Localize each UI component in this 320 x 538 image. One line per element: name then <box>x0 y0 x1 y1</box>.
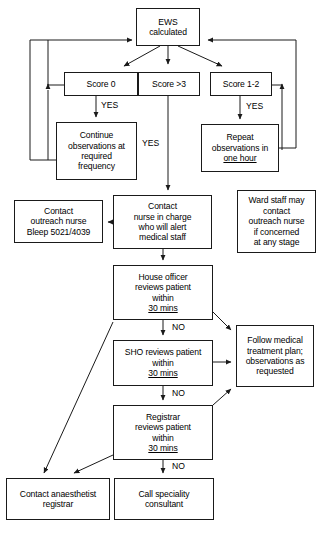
node-repeat-line3: one hour <box>223 153 256 163</box>
node-house-line2: reviews patient <box>116 282 210 292</box>
node-registrar-line1: Registrar <box>116 412 210 422</box>
node-house-line3: within <box>116 293 210 303</box>
node-registrar-line4: 30 mins <box>148 443 177 453</box>
edge-registrar-to-plan <box>213 389 231 405</box>
node-sho-line1: SHO reviews patient <box>116 347 210 357</box>
node-score-greater-than-3[interactable]: Score >3 <box>138 72 200 96</box>
node-speciality-line1: Call speciality <box>117 489 211 499</box>
edge-registrar-to-anaesthetist <box>74 455 113 473</box>
node-plan-line4: requested <box>239 366 311 376</box>
edge-ews-to-score12 <box>178 46 222 66</box>
node-nurse-line2: nurse in charge <box>116 212 209 222</box>
node-nurse-line1: Contact <box>116 201 209 211</box>
node-score-0-label: Score 0 <box>67 79 135 89</box>
edge-ews-to-score0 <box>124 46 160 66</box>
node-score-1-2[interactable]: Score 1-2 <box>210 72 272 96</box>
node-house-officer-review[interactable]: House officer reviews patient within 30 … <box>113 265 213 320</box>
node-repeat-observations[interactable]: Repeat observations in one hour <box>201 124 279 172</box>
node-outreach-line2: outreach nurse <box>17 216 100 226</box>
node-anaesthetist-line2: registrar <box>9 499 107 509</box>
node-continue-observations[interactable]: Continue observations at required freque… <box>56 122 137 180</box>
node-continue-line4: frequency <box>59 161 134 171</box>
edge-house-officer-to-anaesthetist <box>44 322 113 473</box>
edge-label-no-sho: NO <box>172 388 185 398</box>
node-score-1-2-label: Score 1-2 <box>213 79 269 89</box>
node-score-0[interactable]: Score 0 <box>64 72 138 96</box>
node-anaesthetist-line1: Contact anaesthetist <box>9 489 107 499</box>
edge-score0-left-rail <box>48 40 64 85</box>
node-ews-line2: calculated <box>139 27 197 37</box>
node-speciality-line2: consultant <box>117 499 211 509</box>
edge-label-no-house-officer: NO <box>172 322 185 332</box>
node-sho-line3: 30 mins <box>148 368 177 378</box>
node-registrar-line2: reviews patient <box>116 422 210 432</box>
node-registrar-line3: within <box>116 433 210 443</box>
node-house-line4: 30 mins <box>148 303 177 313</box>
node-repeat-line2: observations in <box>204 143 276 153</box>
node-plan-line2: treatment plan; <box>239 346 311 356</box>
node-ews-calculated[interactable]: EWS calculated <box>136 8 200 46</box>
node-ward-line3: outreach nurse <box>240 216 313 226</box>
node-ward-line1: Ward staff may <box>240 195 313 205</box>
node-call-speciality-consultant[interactable]: Call speciality consultant <box>114 478 214 520</box>
node-house-line1: House officer <box>116 272 210 282</box>
node-registrar-review[interactable]: Registrar reviews patient within 30 mins <box>113 405 213 460</box>
node-nurse-line4: medical staff <box>116 232 209 242</box>
node-continue-line1: Continue <box>59 130 134 140</box>
flowchart-canvas: EWS calculated Score 0 Score >3 Score 1-… <box>0 0 320 538</box>
node-continue-line2: observations at <box>59 141 134 151</box>
node-ward-line5: at any stage <box>240 237 313 247</box>
node-sho-review[interactable]: SHO reviews patient within 30 mins <box>113 340 213 386</box>
edge-label-yes-score0: YES <box>101 100 118 110</box>
node-ews-line1: EWS <box>139 17 197 27</box>
edge-label-yes-score-gt3: YES <box>142 138 159 148</box>
edge-label-no-registrar: NO <box>172 461 185 471</box>
node-plan-line3: observations as <box>239 356 311 366</box>
node-follow-medical-plan[interactable]: Follow medical treatment plan; observati… <box>236 325 314 387</box>
node-outreach-line3: Bleep 5021/4039 <box>17 227 100 237</box>
node-contact-anaesthetist[interactable]: Contact anaesthetist registrar <box>6 478 110 520</box>
node-contact-outreach-nurse[interactable]: Contact outreach nurse Bleep 5021/4039 <box>14 200 103 243</box>
node-repeat-line1: Repeat <box>204 132 276 142</box>
node-contact-nurse-in-charge[interactable]: Contact nurse in charge who will alert m… <box>113 195 212 249</box>
node-continue-line3: required <box>59 151 134 161</box>
node-outreach-line1: Contact <box>17 206 100 216</box>
node-score-gt3-label: Score >3 <box>141 79 197 89</box>
node-ward-line4: if concerned <box>240 227 313 237</box>
edge-label-yes-score12: YES <box>246 101 263 111</box>
node-plan-line1: Follow medical <box>239 335 311 345</box>
node-ward-line2: contact <box>240 206 313 216</box>
node-sho-line2: within <box>116 358 210 368</box>
node-ward-staff-note[interactable]: Ward staff may contact outreach nurse if… <box>237 190 316 253</box>
edge-house-officer-to-plan <box>213 312 231 330</box>
node-nurse-line3: who will alert <box>116 222 209 232</box>
